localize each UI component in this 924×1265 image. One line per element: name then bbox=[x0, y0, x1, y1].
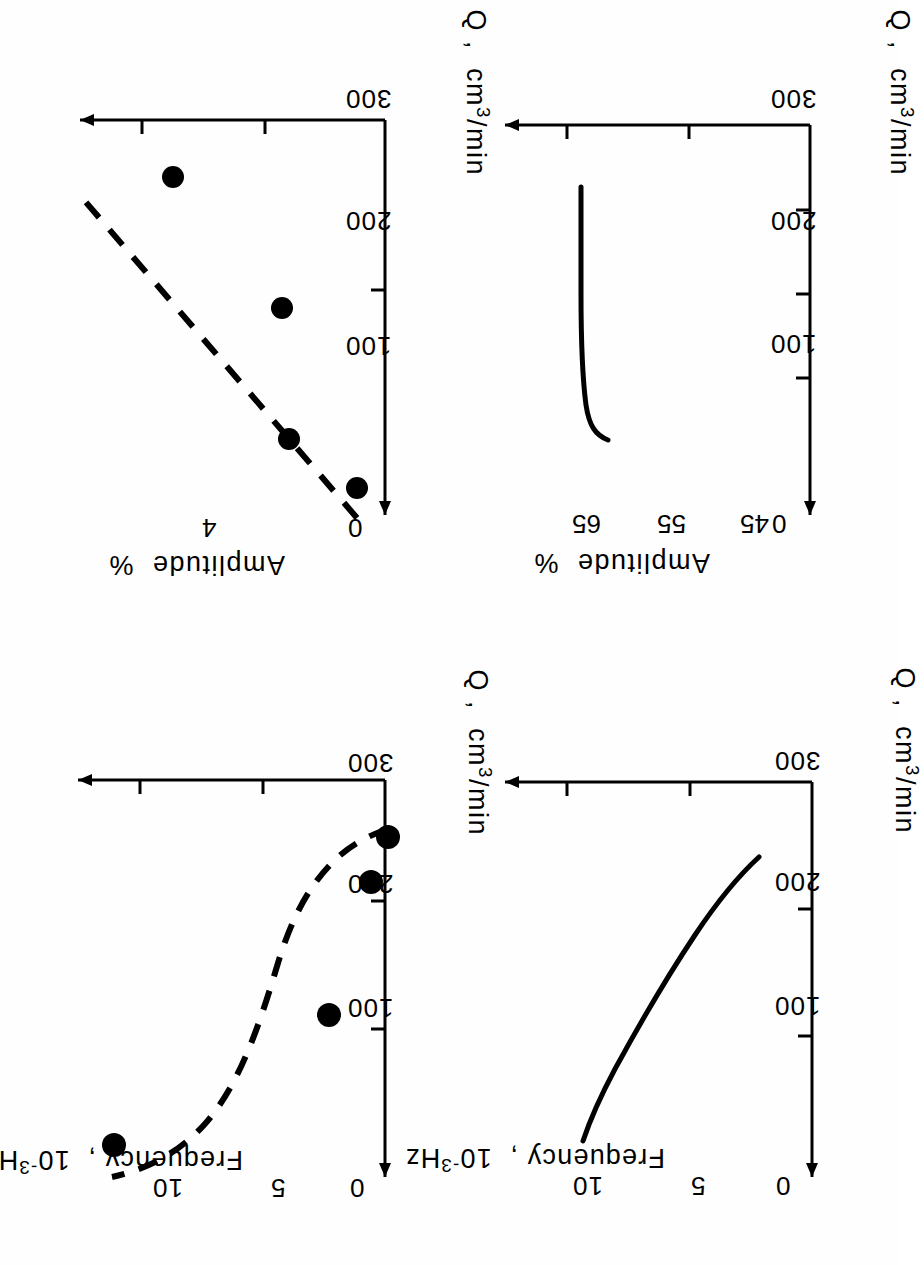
tl-xtick-100: 100 bbox=[345, 330, 391, 361]
y-axis bbox=[371, 120, 391, 515]
tl-origin-label: 0 bbox=[348, 512, 362, 543]
bl-origin-label: 0 bbox=[350, 1172, 364, 1203]
tl-xtick-300: 300 bbox=[345, 83, 391, 114]
br-xtick-300: 300 bbox=[774, 745, 820, 776]
tr-yaxis-label: Amplitude % bbox=[533, 547, 710, 578]
panel-amplitude-theoretical bbox=[485, 55, 825, 575]
x-axis bbox=[78, 774, 385, 794]
tr-xtick-200: 200 bbox=[770, 205, 816, 236]
trend-dashed-line bbox=[78, 193, 357, 518]
br-xtick-100: 100 bbox=[774, 990, 820, 1021]
tl-xtick-200: 200 bbox=[345, 205, 391, 236]
bl-yaxis-label-text: Frequency , 10-3Hz bbox=[0, 1113, 295, 1209]
x-axis bbox=[505, 119, 810, 139]
tr-origin-label: 0 bbox=[772, 508, 786, 539]
panel-amplitude-experimental bbox=[60, 55, 400, 575]
bl-xtick-100: 100 bbox=[347, 992, 393, 1023]
br-yaxis-label: Frequency , 10-3Hz bbox=[405, 1080, 752, 1238]
bl-xtick-200: 200 bbox=[347, 868, 393, 899]
tl-ytick-4: 4 bbox=[202, 512, 216, 543]
br-xtick-200: 200 bbox=[774, 866, 820, 897]
bl-xtick-300: 300 bbox=[347, 747, 393, 778]
panel-amplitude-experimental-plot bbox=[60, 55, 400, 575]
tr-ytick-45: 45 bbox=[740, 508, 769, 539]
tr-xaxis-label-text: Q , cm3/min bbox=[853, 0, 924, 176]
br-xaxis-label: Q , cm3/min bbox=[827, 613, 924, 870]
x-axis bbox=[80, 114, 385, 134]
tr-ytick-55: 55 bbox=[657, 508, 686, 539]
br-yaxis-label-text: Frequency , 10-3Hz bbox=[405, 1111, 717, 1207]
y-axis bbox=[796, 125, 816, 515]
tr-xtick-100: 100 bbox=[770, 328, 816, 359]
tr-xtick-300: 300 bbox=[770, 83, 816, 114]
br-origin-label: 0 bbox=[776, 1170, 790, 1201]
tl-yaxis-label: Amplitude % bbox=[108, 549, 285, 580]
panel-amplitude-theoretical-plot bbox=[485, 55, 825, 575]
br-xaxis-label-text: Q , cm3/min bbox=[858, 613, 924, 834]
x-axis bbox=[505, 776, 812, 796]
data-points bbox=[162, 166, 368, 499]
tr-ytick-65: 65 bbox=[572, 508, 601, 539]
bl-yaxis-label: Frequency , 10-3Hz bbox=[0, 1082, 330, 1240]
model-curve bbox=[581, 187, 608, 440]
tr-xaxis-label: Q , cm3/min bbox=[822, 0, 924, 212]
y-axis bbox=[798, 782, 818, 1177]
